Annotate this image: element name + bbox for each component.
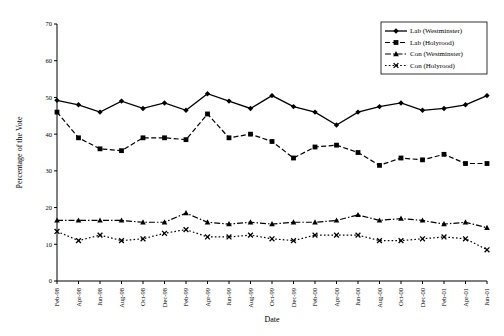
point-marker-diamond — [97, 109, 102, 114]
point-marker-square — [184, 137, 189, 142]
y-tick-label: 20 — [46, 204, 53, 211]
point-marker-diamond — [162, 100, 167, 105]
x-axis-title: Date — [264, 315, 280, 324]
x-tick-label: Feb-00 — [311, 288, 318, 306]
x-tick-label: Feb-98 — [53, 288, 60, 306]
point-marker-square — [442, 152, 447, 157]
point-marker-diamond — [54, 98, 59, 103]
point-marker-diamond — [377, 104, 382, 109]
series-line — [57, 112, 487, 165]
legend-label-4: Con (Holyrood) — [410, 62, 456, 70]
point-marker-cross — [420, 236, 425, 241]
point-marker-square — [356, 150, 361, 155]
point-marker-diamond — [226, 98, 231, 103]
point-marker-square — [291, 156, 296, 161]
point-marker-diamond — [76, 102, 81, 107]
point-marker-square — [313, 145, 318, 150]
point-marker-diamond — [355, 109, 360, 114]
point-marker-square — [98, 146, 103, 151]
point-marker-triangle — [183, 210, 189, 215]
point-marker-diamond — [269, 93, 274, 98]
y-axis-title: Percentage of the Vote — [15, 116, 24, 188]
point-marker-triangle — [97, 217, 103, 222]
x-tick-label: Dec-00 — [419, 288, 426, 307]
y-tick-label: 40 — [46, 131, 53, 138]
legend: Lab (Westminster)Lab (Holyrood)Con (West… — [381, 22, 487, 74]
point-marker-cross — [270, 236, 275, 241]
y-tick-label: 70 — [46, 20, 53, 27]
point-marker-triangle — [463, 219, 469, 224]
point-marker-square — [248, 132, 253, 137]
point-marker-cross — [76, 238, 81, 243]
point-marker-cross — [205, 235, 210, 240]
point-marker-diamond — [119, 98, 124, 103]
point-marker-diamond — [398, 100, 403, 105]
point-marker-cross — [334, 233, 339, 238]
point-marker-diamond — [420, 108, 425, 113]
point-marker-square — [55, 110, 60, 115]
point-marker-diamond — [463, 102, 468, 107]
x-tick-label: Jun-00 — [354, 288, 361, 306]
y-tick-label: 30 — [46, 167, 53, 174]
x-tick-label: Aug-98 — [118, 288, 125, 308]
point-marker-triangle — [312, 219, 318, 224]
point-marker-square — [141, 135, 146, 140]
point-marker-cross — [162, 231, 167, 236]
x-tick-label: Apr-99 — [204, 288, 211, 307]
x-tick-label: Jun-99 — [225, 288, 232, 306]
x-tick-label: Feb-01 — [440, 288, 447, 306]
point-marker-diamond — [441, 106, 446, 111]
legend-label-1: Lab (Westminster) — [410, 27, 463, 35]
x-tick-label: Oct-99 — [268, 288, 275, 306]
point-marker-square — [485, 161, 490, 166]
point-marker-cross — [485, 247, 490, 252]
x-tick-label: Oct-00 — [397, 288, 404, 306]
y-tick-label: 60 — [46, 57, 53, 64]
point-marker-square — [399, 156, 404, 161]
legend-label-2: Lab (Holyrood) — [410, 39, 455, 47]
x-tick-label: Apr-98 — [75, 288, 82, 307]
point-marker-square — [377, 163, 382, 168]
x-tick-label: Apr-00 — [333, 288, 340, 307]
point-marker-diamond — [484, 93, 489, 98]
point-marker-diamond — [140, 106, 145, 111]
legend-label-3: Con (Westminster) — [410, 50, 464, 58]
y-tick-label: 50 — [46, 94, 53, 101]
point-marker-square — [394, 40, 399, 45]
point-marker-triangle — [355, 212, 361, 217]
x-tick-label: Jun-98 — [96, 288, 103, 306]
point-marker-diamond — [334, 122, 339, 127]
point-marker-square — [334, 143, 339, 148]
chart-container: 010203040506070Feb-98Apr-98Jun-98Aug-98O… — [0, 0, 504, 336]
x-tick-label: Dec-98 — [161, 288, 168, 307]
x-tick-label: Aug-99 — [247, 288, 254, 308]
point-marker-square — [76, 135, 81, 140]
point-marker-square — [162, 135, 167, 140]
point-marker-cross — [184, 227, 189, 232]
point-marker-cross — [248, 233, 253, 238]
point-marker-square — [205, 112, 210, 117]
x-tick-label: Aug-00 — [376, 288, 383, 308]
point-marker-square — [227, 135, 232, 140]
series-4 — [55, 227, 490, 252]
point-marker-square — [270, 139, 275, 144]
x-tick-label: Jun-01 — [483, 288, 490, 306]
point-marker-diamond — [291, 104, 296, 109]
x-tick-label: Apr-01 — [462, 288, 469, 307]
series-2 — [55, 110, 490, 168]
point-marker-diamond — [312, 109, 317, 114]
point-marker-square — [463, 161, 468, 166]
y-tick-label: 0 — [49, 277, 52, 284]
x-tick-label: Oct-98 — [139, 288, 146, 306]
x-tick-label: Dec-99 — [290, 288, 297, 307]
y-tick-label: 10 — [46, 241, 53, 248]
line-chart: 010203040506070Feb-98Apr-98Jun-98Aug-98O… — [0, 0, 504, 336]
point-marker-diamond — [248, 106, 253, 111]
point-marker-square — [420, 157, 425, 162]
x-tick-label: Feb-99 — [182, 288, 189, 306]
point-marker-square — [119, 148, 124, 153]
series-3 — [54, 210, 490, 230]
series-1 — [54, 91, 489, 128]
